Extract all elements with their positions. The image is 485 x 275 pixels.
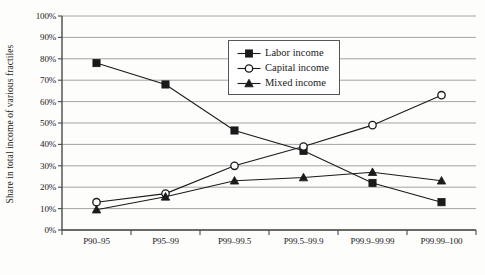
y-tick-label: 10% bbox=[40, 204, 56, 214]
y-tick-label: 100% bbox=[36, 11, 56, 21]
x-tick-label: P95–99 bbox=[152, 236, 179, 246]
legend-item-label: Mixed income bbox=[262, 77, 326, 88]
y-tick-label: 80% bbox=[40, 54, 56, 64]
legend-item-label: Labor income bbox=[262, 47, 324, 58]
data-point-marker bbox=[231, 162, 238, 169]
y-axis-title: Share in total income of various fractil… bbox=[0, 0, 20, 248]
x-tick-label: P99.9–99.99 bbox=[351, 236, 395, 246]
legend-item: Mixed income bbox=[236, 75, 329, 90]
y-tick-label: 50% bbox=[40, 118, 56, 128]
data-point-marker bbox=[438, 199, 445, 206]
x-axis-tick-labels: P90–95P95–99P99–99.5P99.5–99.9P99.9–99.9… bbox=[62, 234, 476, 260]
y-tick-label: 30% bbox=[40, 161, 56, 171]
legend-marker-open-circle-icon bbox=[236, 61, 262, 74]
x-tick-label: P99–99.5 bbox=[218, 236, 251, 246]
legend-item: Labor income bbox=[236, 45, 329, 60]
legend-item: Capital income bbox=[236, 60, 329, 75]
data-point-marker bbox=[245, 65, 252, 72]
y-tick-label: 40% bbox=[40, 139, 56, 149]
series-line bbox=[97, 95, 442, 202]
legend-marker-filled-triangle-icon bbox=[236, 76, 262, 89]
data-point-marker bbox=[245, 50, 252, 57]
data-point-marker bbox=[231, 127, 238, 134]
series-mixed-income bbox=[92, 168, 445, 213]
y-tick-label: 60% bbox=[40, 97, 56, 107]
y-tick-label: 20% bbox=[40, 182, 56, 192]
y-axis-title-text: Share in total income of various fractil… bbox=[5, 45, 15, 204]
chart-figure: Share in total income of various fractil… bbox=[0, 0, 485, 275]
y-tick-label: 0% bbox=[44, 225, 56, 235]
x-tick-label: P99.99–100 bbox=[421, 236, 463, 246]
x-tick-label: P99.5–99.9 bbox=[284, 236, 324, 246]
legend-marker-filled-square-icon bbox=[236, 46, 262, 59]
data-point-marker bbox=[93, 59, 100, 66]
x-tick-label: P90–95 bbox=[83, 236, 110, 246]
data-point-marker bbox=[369, 121, 376, 128]
data-point-marker bbox=[368, 168, 376, 176]
data-point-marker bbox=[369, 179, 376, 186]
data-point-marker bbox=[300, 143, 307, 150]
chart-legend: Labor incomeCapital incomeMixed income bbox=[228, 40, 340, 95]
legend-item-label: Capital income bbox=[262, 62, 329, 73]
y-tick-label: 70% bbox=[40, 75, 56, 85]
series-line bbox=[97, 172, 442, 209]
y-tick-label: 90% bbox=[40, 32, 56, 42]
data-point-marker bbox=[162, 81, 169, 88]
data-point-marker bbox=[438, 91, 445, 98]
y-axis-tick-labels: 0%10%20%30%40%50%60%70%80%90%100% bbox=[18, 0, 60, 248]
